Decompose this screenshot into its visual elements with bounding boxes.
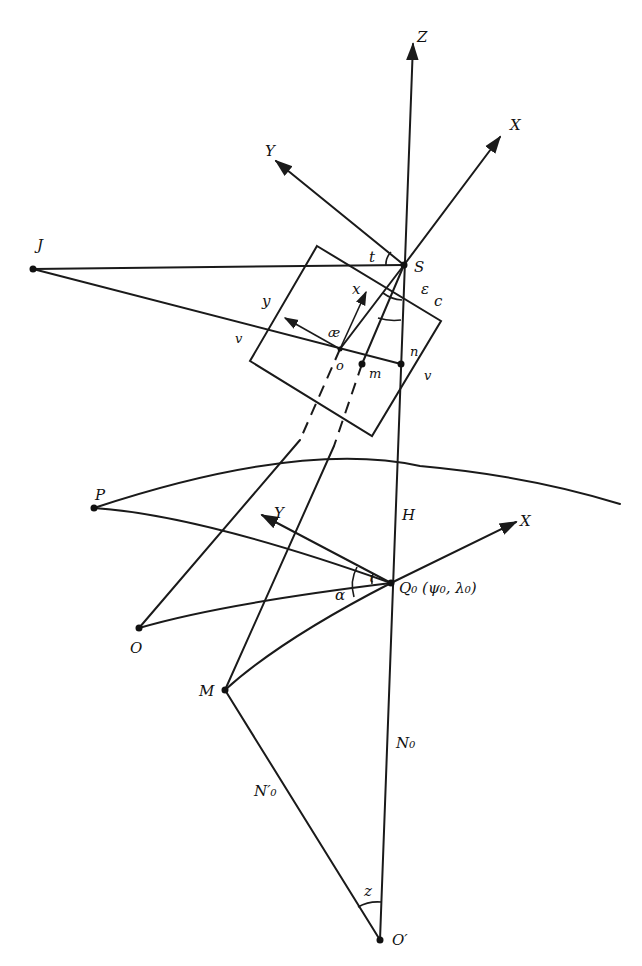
label-m-ground: M: [198, 682, 215, 700]
upper-x-axis: [404, 137, 500, 265]
label-h: H: [401, 506, 416, 524]
label-image-x: x: [352, 280, 361, 298]
z-axis: [380, 44, 413, 940]
point-m-ground: [222, 687, 229, 694]
label-upper-y: Y: [265, 142, 277, 160]
label-s: S: [414, 258, 424, 276]
upper-y-axis: [276, 161, 404, 265]
label-ground-y: Y: [274, 504, 286, 522]
label-q0: Q₀ (ψ₀, λ₀): [399, 579, 477, 597]
point-p: [91, 505, 98, 512]
point-o-ground: [136, 625, 143, 632]
label-n0-prime: N′₀: [253, 782, 277, 800]
label-m-image: m: [369, 366, 381, 381]
line-j-n: [33, 269, 401, 364]
label-upper-x: X: [509, 116, 522, 134]
earth-surface-curve: [94, 459, 620, 508]
ray-s-m: [362, 265, 404, 364]
point-s: [401, 262, 408, 269]
label-z-axis: Z: [416, 28, 428, 46]
point-n: [398, 361, 405, 368]
label-n0: N₀: [395, 734, 415, 752]
label-alpha: α: [335, 586, 345, 604]
label-image-y: y: [261, 292, 271, 310]
curve-p-q0: [94, 508, 391, 583]
geometry-diagram: Z X Y S J t ε c x y æ v o m n v P H Y X …: [0, 0, 642, 966]
angle-z-arc: [358, 902, 381, 907]
label-ground-x: X: [519, 512, 532, 530]
label-o-ground: O: [130, 639, 142, 657]
point-q0: [388, 580, 395, 587]
label-o-prime: O′: [392, 931, 408, 949]
ray-s-o: [340, 265, 404, 349]
label-j: J: [34, 236, 44, 254]
point-oprime: [377, 937, 384, 944]
label-z-angle: z: [363, 882, 372, 900]
label-o-image: o: [336, 358, 344, 373]
label-v-right: v: [424, 368, 432, 383]
label-t: t: [369, 248, 376, 266]
point-m-image: [359, 361, 366, 368]
label-iota: ι: [369, 570, 374, 585]
label-epsilon: ε: [421, 280, 429, 298]
ground-x-axis: [391, 522, 516, 583]
ray-to-M: [225, 446, 334, 690]
ray-m-dashed: [334, 364, 362, 446]
line-m-oprime: [225, 690, 380, 940]
label-v-left: v: [235, 331, 243, 346]
label-c: c: [434, 292, 443, 310]
point-j: [30, 266, 37, 273]
label-p: P: [94, 486, 106, 504]
point-o-image: [338, 347, 343, 352]
line-j-s: [33, 265, 404, 269]
label-n: n: [410, 344, 418, 359]
label-ae: æ: [328, 325, 340, 340]
